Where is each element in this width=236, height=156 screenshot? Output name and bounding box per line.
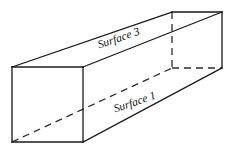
prism-diagram-canvas: Surface 3 Surface 1 [0, 0, 236, 156]
prism-figure: Surface 3 Surface 1 [0, 0, 236, 156]
front-face-fill [12, 67, 83, 142]
